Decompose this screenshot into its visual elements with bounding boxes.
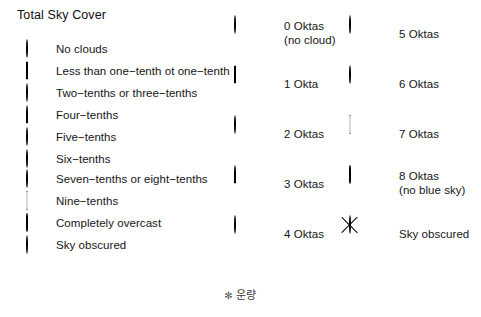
okta-item-label: 4 Oktas: [284, 228, 324, 241]
legend-item-nine-tenths: Nine−tenths: [26, 192, 28, 210]
sky-cover-chart: Total Sky Cover No clouds Less than one−…: [0, 0, 481, 317]
okta-item-label: 2 Oktas: [284, 128, 324, 141]
symbol-circle-three-quarters: [349, 66, 351, 84]
symbol-circle-full-with-light-line: [349, 116, 351, 134]
legend-item-six-tenths: Six−tenths: [26, 150, 28, 168]
legend-item-label: Two−tenths or three−tenths: [56, 87, 197, 100]
symbol-circle-cross: [349, 216, 351, 234]
page-title: Total Sky Cover: [17, 8, 106, 22]
legend-item-label: Completely overcast: [56, 217, 161, 230]
legend-item-sky-obscured: Sky obscured: [26, 236, 28, 254]
symbol-circle-vertical-line: [234, 66, 236, 84]
okta-item-7: 7 Oktas: [349, 116, 351, 134]
okta-item-label: 5 Oktas: [399, 28, 439, 41]
sun-flower-icon: ✻: [224, 290, 233, 301]
symbol-circle-vertical-line: [26, 62, 28, 80]
legend-item-label: Five−tenths: [56, 131, 116, 144]
legend-item-less-than-one-tenth: Less than one−tenth ot one−tenth: [26, 62, 28, 80]
okta-item-label: 1 Okta: [284, 78, 318, 91]
symbol-circle-empty: [26, 236, 28, 254]
symbol-circle-right-half-plus-left-line: [26, 150, 28, 168]
legend-item-label: Four−tenths: [56, 109, 118, 122]
okta-item-sublabel: (no cloud): [284, 34, 336, 47]
symbol-circle-full-with-light-line: [26, 192, 28, 210]
legend-item-four-tenths: Four−tenths: [26, 106, 28, 124]
symbol-circle-empty: [234, 16, 236, 34]
legend-item-seven-or-eight-tenths: Seven−tenths or eight−tenths: [26, 170, 28, 188]
caption-text: 운량: [236, 289, 257, 301]
legend-item-two-or-three-tenths: Two−tenths or three−tenths: [26, 84, 28, 102]
legend-item-five-tenths: Five−tenths: [26, 128, 28, 146]
symbol-circle-filled: [349, 166, 351, 184]
okta-item-label: Sky obscured: [399, 228, 469, 241]
symbol-circle-right-half: [26, 128, 28, 146]
legend-item-label: Six−tenths: [56, 153, 111, 166]
symbol-circle-quarter-upper-right-plus-line: [234, 166, 236, 184]
symbol-circle-quarter-upper-right-plus-line: [26, 106, 28, 124]
okta-item-sublabel: (no blue sky): [399, 184, 465, 197]
legend-item-label: No clouds: [56, 43, 108, 56]
okta-item-8: 8 Oktas (no blue sky): [349, 166, 351, 184]
symbol-circle-three-quarters: [26, 170, 28, 188]
okta-item-label: 0 Oktas: [284, 20, 324, 33]
okta-item-label: 6 Oktas: [399, 78, 439, 91]
symbol-circle-filled: [26, 214, 28, 232]
figure-caption: ✻운량: [0, 286, 481, 302]
symbol-circle-empty: [26, 40, 28, 58]
okta-item-0: 0 Oktas (no cloud): [234, 16, 236, 34]
legend-item-label: Sky obscured: [56, 239, 126, 252]
legend-item-no-clouds: No clouds: [26, 40, 28, 58]
okta-item-label: 8 Oktas: [399, 170, 439, 183]
okta-item-4: 4 Oktas: [234, 216, 236, 234]
legend-item-label: Nine−tenths: [56, 195, 118, 208]
okta-item-label: 7 Oktas: [399, 128, 439, 141]
legend-item-completely-overcast: Completely overcast: [26, 214, 28, 232]
okta-item-5: 5 Oktas: [349, 16, 351, 34]
symbol-circle-right-half: [234, 216, 236, 234]
legend-item-label: Less than one−tenth ot one−tenth: [56, 65, 230, 78]
okta-item-label: 3 Oktas: [284, 178, 324, 191]
okta-item-6: 6 Oktas: [349, 66, 351, 84]
okta-item-2: 2 Oktas: [234, 116, 236, 134]
symbol-circle-quarter-upper-right: [26, 84, 28, 102]
legend-item-label: Seven−tenths or eight−tenths: [56, 173, 208, 186]
symbol-circle-quarter-upper-right: [234, 116, 236, 134]
okta-item-3: 3 Oktas: [234, 166, 236, 184]
symbol-circle-right-half-plus-left-line: [349, 16, 351, 34]
okta-item-1: 1 Okta: [234, 66, 236, 84]
okta-item-sky-obscured: Sky obscured: [349, 216, 351, 234]
